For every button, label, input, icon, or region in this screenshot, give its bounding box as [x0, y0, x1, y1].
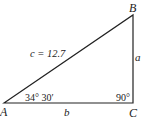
angle-label-a: 34° 30′ — [25, 92, 54, 103]
angle-label-c: 90° — [116, 92, 130, 103]
vertex-label-b: B — [129, 1, 137, 15]
vertex-label-c: C — [129, 106, 138, 120]
side-label-c: c = 12.7 — [30, 48, 66, 59]
side-label-a: a — [135, 51, 141, 63]
right-triangle — [4, 15, 133, 103]
vertex-label-a: A — [0, 105, 8, 119]
side-label-b: b — [64, 106, 70, 118]
triangle-diagram: B a c = 12.7 34° 30′ 90° A b C — [0, 0, 145, 133]
